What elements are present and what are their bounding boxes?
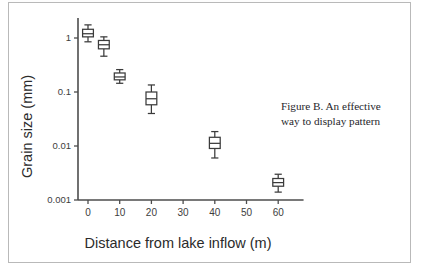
box-plot-group [146,85,157,114]
x-axis: 0102030405060 [78,200,304,218]
x-axis-title: Distance from lake inflow (m) [85,235,272,251]
y-tick-label: 0.01 [53,140,72,151]
box-plot-group [114,70,125,84]
figure-caption-line-2: way to display pattern [281,114,406,129]
box-plot-group [273,174,284,192]
x-tick-label: 20 [146,207,158,218]
x-tick-label: 10 [114,207,126,218]
y-tick-label: 0.001 [47,194,71,205]
box-plot-series [83,25,284,192]
y-tick-label: 0.1 [58,86,71,97]
x-tick-label: 60 [273,207,285,218]
x-tick-label: 40 [209,207,221,218]
figure-caption: Figure B. An effective way to display pa… [281,99,406,128]
box-plot-group [83,25,94,42]
x-tick-label: 50 [241,207,253,218]
x-tick-label: 0 [85,207,91,218]
y-tick-label: 1 [66,32,71,43]
figure-page: 10.10.010.001 0102030405060 Grain size (… [0,0,421,278]
box-plot-svg: 10.10.010.001 0102030405060 Grain size (… [0,0,421,278]
box-plot-group [209,132,220,158]
chart-plot-area: 10.10.010.001 0102030405060 Grain size (… [0,0,421,278]
y-axis: 10.10.010.001 [47,18,78,205]
figure-caption-line-1: Figure B. An effective [281,99,406,114]
box-plot-group [98,37,109,56]
y-axis-title: Grain size (mm) [19,75,35,178]
x-tick-label: 30 [178,207,190,218]
